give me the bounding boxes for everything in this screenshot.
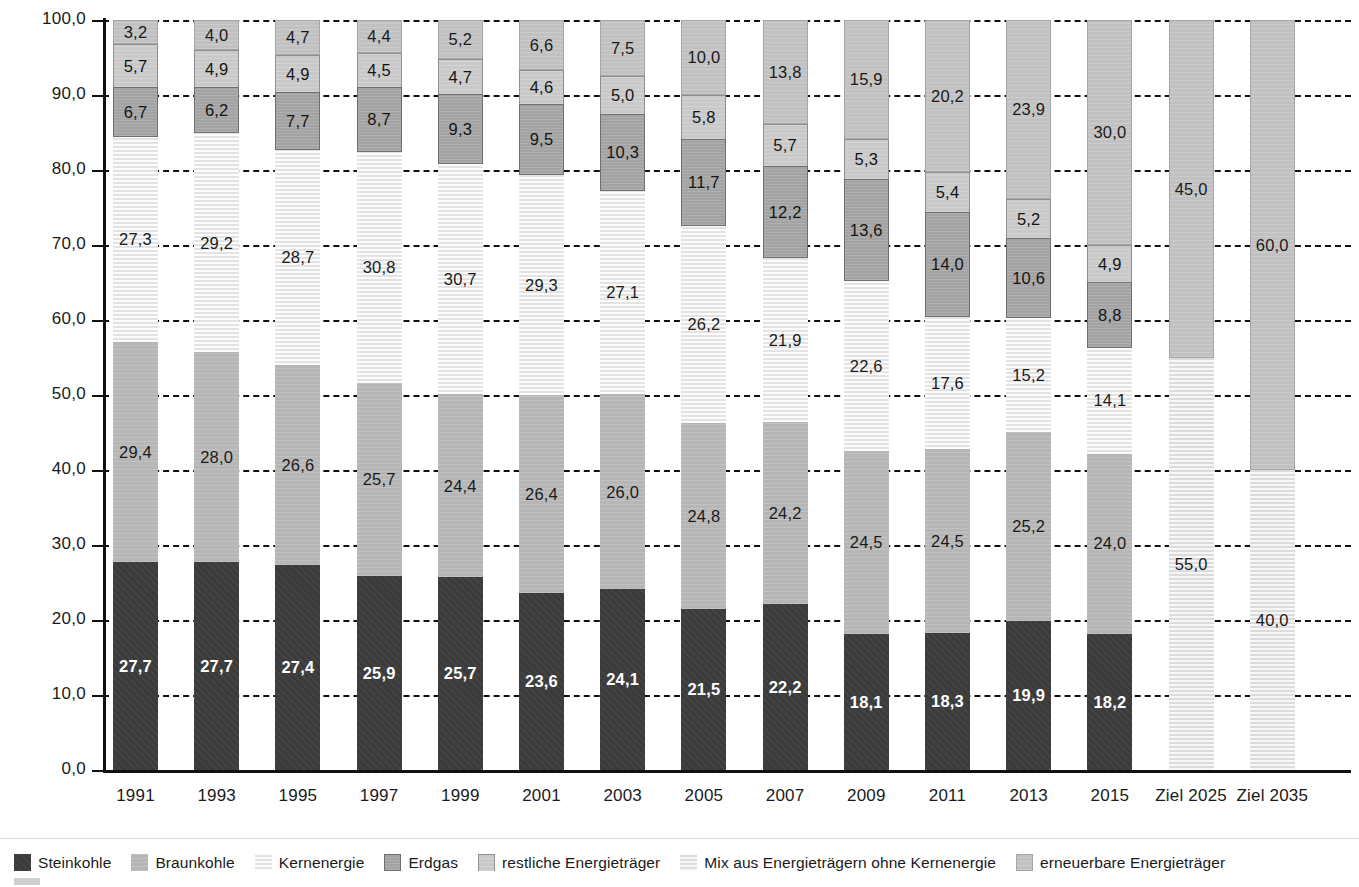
- segment-kernenergie[interactable]: 21,9: [763, 258, 808, 422]
- bar-2001[interactable]: 23,626,429,39,54,66,6: [519, 20, 564, 770]
- segment-restliche-energieträger[interactable]: 4,9: [1087, 245, 1132, 282]
- bar-2015[interactable]: 18,224,014,18,84,930,0: [1087, 20, 1132, 770]
- segment-restliche-energieträger[interactable]: 5,4: [925, 172, 970, 213]
- segment-braunkohle[interactable]: 26,6: [275, 365, 320, 565]
- segment-braunkohle[interactable]: 24,5: [844, 451, 889, 635]
- segment-erdgas[interactable]: 6,2: [194, 87, 239, 134]
- segment-restliche-energieträger[interactable]: 5,2: [1006, 199, 1051, 238]
- segment-erdgas[interactable]: 11,7: [681, 139, 726, 227]
- segment-erdgas[interactable]: 7,7: [275, 92, 320, 150]
- segment-steinkohle[interactable]: 24,1: [600, 589, 645, 770]
- segment-erdgas[interactable]: 14,0: [925, 212, 970, 317]
- segment-braunkohle[interactable]: 24,4: [438, 394, 483, 577]
- segment-braunkohle[interactable]: 24,0: [1087, 454, 1132, 634]
- segment-kernenergie[interactable]: 28,7: [275, 150, 320, 365]
- segment-kernenergie[interactable]: 14,1: [1087, 348, 1132, 454]
- segment-erdgas[interactable]: 8,7: [357, 87, 402, 152]
- segment-steinkohle[interactable]: 19,9: [1006, 621, 1051, 770]
- segment-erdgas[interactable]: 13,6: [844, 179, 889, 281]
- segment-kernenergie[interactable]: 30,8: [357, 152, 402, 383]
- segment-braunkohle[interactable]: 24,5: [925, 449, 970, 633]
- segment-steinkohle[interactable]: 18,2: [1087, 634, 1132, 771]
- segment-kernenergie[interactable]: 27,1: [600, 191, 645, 394]
- segment-steinkohle[interactable]: 25,7: [438, 577, 483, 770]
- segment-kernenergie[interactable]: 15,2: [1006, 318, 1051, 432]
- bar-2011[interactable]: 18,324,517,614,05,420,2: [925, 20, 970, 770]
- bar-ziel-2025[interactable]: 55,045,0: [1169, 20, 1214, 770]
- segment-kernenergie[interactable]: 29,2: [194, 133, 239, 352]
- segment-restliche-energieträger[interactable]: 4,6: [519, 70, 564, 105]
- bar-2005[interactable]: 21,524,826,211,75,810,0: [681, 20, 726, 770]
- segment-restliche-energieträger[interactable]: 4,7: [438, 59, 483, 94]
- legend-item-restliche-energieträger[interactable]: restliche Energieträger: [478, 854, 660, 872]
- bar-1995[interactable]: 27,426,628,77,74,94,7: [275, 20, 320, 770]
- segment-braunkohle[interactable]: 25,7: [357, 383, 402, 576]
- segment-braunkohle[interactable]: 24,2: [763, 422, 808, 604]
- segment-erneuerbare-energieträger[interactable]: 20,2: [925, 20, 970, 172]
- segment-erneuerbare-energieträger[interactable]: 23,9: [1006, 20, 1051, 199]
- segment-erneuerbare-energieträger[interactable]: 4,0: [194, 20, 239, 50]
- segment-restliche-energieträger[interactable]: 5,8: [681, 95, 726, 139]
- bar-2003[interactable]: 24,126,027,110,35,07,5: [600, 20, 645, 770]
- segment-erdgas[interactable]: 10,3: [600, 114, 645, 191]
- segment-steinkohle[interactable]: 22,2: [763, 604, 808, 771]
- segment-erdgas[interactable]: 8,8: [1087, 282, 1132, 348]
- bar-1997[interactable]: 25,925,730,88,74,54,4: [357, 20, 402, 770]
- segment-steinkohle[interactable]: 27,4: [275, 565, 320, 771]
- bar-2013[interactable]: 19,925,215,210,65,223,9: [1006, 20, 1051, 770]
- segment-mix-aus-energieträgern-ohne-kernenergie[interactable]: 40,0: [1250, 470, 1295, 770]
- segment-mix-aus-energieträgern-ohne-kernenergie[interactable]: 55,0: [1169, 358, 1214, 771]
- segment-restliche-energieträger[interactable]: 5,7: [763, 124, 808, 167]
- segment-erneuerbare-energieträger[interactable]: 15,9: [844, 20, 889, 139]
- segment-erneuerbare-energieträger[interactable]: 7,5: [600, 20, 645, 76]
- bar-1991[interactable]: 27,729,427,36,75,73,2: [113, 20, 158, 770]
- bar-1993[interactable]: 27,728,029,26,24,94,0: [194, 20, 239, 770]
- segment-erdgas[interactable]: 12,2: [763, 166, 808, 258]
- segment-steinkohle[interactable]: 27,7: [194, 562, 239, 770]
- segment-braunkohle[interactable]: 28,0: [194, 352, 239, 562]
- legend-item-kernenergie[interactable]: Kernenergie: [255, 854, 365, 872]
- segment-steinkohle[interactable]: 18,1: [844, 634, 889, 770]
- segment-kernenergie[interactable]: 30,7: [438, 164, 483, 394]
- bar-2009[interactable]: 18,124,522,613,65,315,9: [844, 20, 889, 770]
- legend-item-steinkohle[interactable]: Steinkohle: [14, 854, 111, 872]
- segment-kernenergie[interactable]: 26,2: [681, 226, 726, 423]
- segment-restliche-energieträger[interactable]: 5,7: [113, 44, 158, 87]
- segment-kernenergie[interactable]: 27,3: [113, 137, 158, 342]
- segment-steinkohle[interactable]: 21,5: [681, 609, 726, 770]
- legend-item-erdgas[interactable]: Erdgas: [384, 854, 458, 872]
- segment-restliche-energieträger[interactable]: 4,9: [275, 55, 320, 92]
- segment-kernenergie[interactable]: 22,6: [844, 281, 889, 451]
- legend-item-erneuerbare-energieträger[interactable]: erneuerbare Energieträger: [1016, 854, 1225, 872]
- segment-erneuerbare-energieträger[interactable]: 4,4: [357, 20, 402, 53]
- segment-restliche-energieträger[interactable]: 4,9: [194, 50, 239, 87]
- segment-steinkohle[interactable]: 27,7: [113, 562, 158, 770]
- segment-braunkohle[interactable]: 29,4: [113, 342, 158, 563]
- legend-item-braunkohle[interactable]: Braunkohle: [131, 854, 234, 872]
- legend-item-mix-aus-energieträgern-ohne-kernenergie[interactable]: Mix aus Energieträgern ohne Kernenergie: [680, 854, 996, 872]
- segment-restliche-energieträger[interactable]: 5,3: [844, 139, 889, 179]
- segment-braunkohle[interactable]: 24,8: [681, 423, 726, 609]
- segment-erneuerbare-energieträger[interactable]: 30,0: [1087, 20, 1132, 245]
- segment-restliche-energieträger[interactable]: 5,0: [600, 76, 645, 114]
- segment-erneuerbare-energieträger[interactable]: 4,7: [275, 20, 320, 55]
- bar-2007[interactable]: 22,224,221,912,25,713,8: [763, 20, 808, 770]
- segment-steinkohle[interactable]: 18,3: [925, 633, 970, 770]
- segment-erneuerbare-energieträger[interactable]: 5,2: [438, 20, 483, 59]
- bar-1999[interactable]: 25,724,430,79,34,75,2: [438, 20, 483, 770]
- segment-braunkohle[interactable]: 25,2: [1006, 432, 1051, 621]
- segment-erdgas[interactable]: 6,7: [113, 87, 158, 137]
- segment-erneuerbare-energieträger[interactable]: 10,0: [681, 20, 726, 95]
- segment-steinkohle[interactable]: 23,6: [519, 593, 564, 770]
- segment-erneuerbare-energieträger[interactable]: 13,8: [763, 20, 808, 124]
- bar-ziel-2035[interactable]: 40,060,0: [1250, 20, 1295, 770]
- segment-erdgas[interactable]: 10,6: [1006, 238, 1051, 318]
- segment-steinkohle[interactable]: 25,9: [357, 576, 402, 770]
- segment-kernenergie[interactable]: 29,3: [519, 175, 564, 395]
- segment-erneuerbare-energieträger[interactable]: 3,2: [113, 20, 158, 44]
- segment-erdgas[interactable]: 9,3: [438, 94, 483, 164]
- segment-kernenergie[interactable]: 17,6: [925, 317, 970, 449]
- segment-braunkohle[interactable]: 26,0: [600, 394, 645, 589]
- segment-erneuerbare-energieträger[interactable]: 60,0: [1250, 20, 1295, 470]
- segment-erneuerbare-energieträger[interactable]: 6,6: [519, 20, 564, 70]
